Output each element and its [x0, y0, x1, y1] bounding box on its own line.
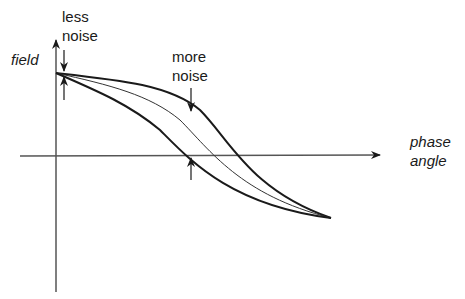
less-noise-label-line2: noise	[62, 27, 98, 45]
curve-nominal	[56, 73, 331, 218]
more-noise-label-line2: noise	[172, 67, 208, 85]
curve-lower	[56, 73, 331, 218]
x-axis-label-line1: phase	[410, 133, 451, 151]
more-noise-label-line1: more	[172, 48, 206, 66]
y-axis-label: field	[11, 51, 39, 69]
x-axis-label-line2: angle	[410, 152, 447, 170]
x-axis	[20, 155, 380, 156]
less-noise-label-line1: less	[62, 8, 89, 26]
curve-upper	[56, 73, 331, 218]
